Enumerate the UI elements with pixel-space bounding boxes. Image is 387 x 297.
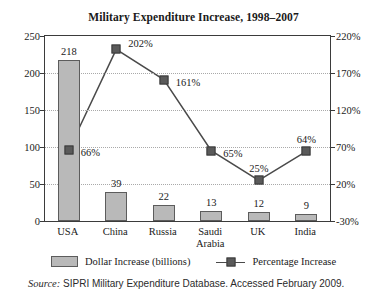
bar-swatch-icon [51, 256, 78, 267]
right-axis-tick-label: 20% [336, 179, 355, 190]
line-data-marker [159, 75, 168, 84]
line-value-label: 202% [128, 38, 153, 49]
line-value-label: 25% [249, 163, 268, 174]
category-label-line: Arabia [180, 238, 240, 250]
gridline [45, 73, 330, 74]
percentage-line-series [45, 36, 330, 221]
bar [105, 192, 127, 221]
bar [200, 211, 222, 221]
category-label-line: India [275, 226, 335, 238]
line-data-marker [64, 145, 73, 154]
line-value-label: 66% [81, 147, 100, 158]
bar [58, 60, 80, 221]
gridline [45, 184, 330, 185]
line-value-label: 64% [297, 134, 316, 145]
right-axis-tickmark [330, 147, 335, 148]
left-axis-tickmark [40, 73, 45, 74]
percentage-line [69, 49, 307, 180]
left-axis-tickmark [40, 221, 45, 222]
line-value-label: 65% [223, 148, 242, 159]
gridline [45, 110, 330, 111]
right-axis-tickmark [330, 110, 335, 111]
right-axis-tickmark [330, 184, 335, 185]
source-text: SIPRI Military Expenditure Database. Acc… [60, 278, 344, 289]
bar [153, 205, 175, 221]
chart-title: Military Expenditure Increase, 1998–2007 [0, 11, 387, 23]
right-axis-tick-label: 220% [336, 31, 361, 42]
left-axis-tickmark [40, 36, 45, 37]
category-label: India [275, 226, 335, 238]
right-axis-tick-label: 120% [336, 105, 361, 116]
legend-item-percentage-increase: Percentage Increase [216, 256, 336, 267]
left-axis-tick-label: 100 [24, 142, 40, 153]
line-value-label: 161% [176, 77, 201, 88]
chart-figure: Military Expenditure Increase, 1998–2007… [0, 0, 387, 297]
bar-value-label: 22 [159, 191, 170, 202]
bar [295, 214, 317, 221]
chart-legend: Dollar Increase (billions) Percentage In… [0, 256, 387, 267]
line-data-marker [254, 176, 263, 185]
plot-area: 050100150200250-30%20%70%120%170%220%218… [44, 35, 331, 222]
left-axis-tick-label: 150 [24, 105, 40, 116]
left-axis-tick-label: 50 [30, 179, 41, 190]
right-axis-tick-label: 70% [336, 142, 355, 153]
legend-label-dollar-increase: Dollar Increase (billions) [85, 256, 191, 267]
left-axis-tickmark [40, 147, 45, 148]
bar-value-label: 13 [206, 197, 217, 208]
left-axis-tick-label: 200 [24, 68, 40, 79]
line-data-marker [302, 147, 311, 156]
right-axis-tickmark [330, 73, 335, 74]
bar-value-label: 39 [111, 178, 122, 189]
right-axis-tickmark [330, 221, 335, 222]
bar-value-label: 9 [304, 200, 309, 211]
line-data-marker [207, 146, 216, 155]
source-prefix: Source: [28, 278, 60, 289]
left-axis-tick-label: 250 [24, 31, 40, 42]
source-note: Source: SIPRI Military Expenditure Datab… [28, 278, 344, 289]
left-axis-tick-label: 0 [35, 216, 40, 227]
line-marker-swatch-icon [216, 256, 245, 267]
right-axis-tickmark [330, 36, 335, 37]
bar [248, 212, 270, 221]
left-axis-tickmark [40, 184, 45, 185]
bar-value-label: 12 [254, 198, 265, 209]
legend-item-dollar-increase: Dollar Increase (billions) [51, 256, 191, 267]
bar-value-label: 218 [61, 46, 77, 57]
right-axis-tick-label: -30% [336, 216, 359, 227]
left-axis-tickmark [40, 110, 45, 111]
legend-label-percentage-increase: Percentage Increase [252, 256, 336, 267]
right-axis-tick-label: 170% [336, 68, 361, 79]
line-data-marker [112, 45, 121, 54]
